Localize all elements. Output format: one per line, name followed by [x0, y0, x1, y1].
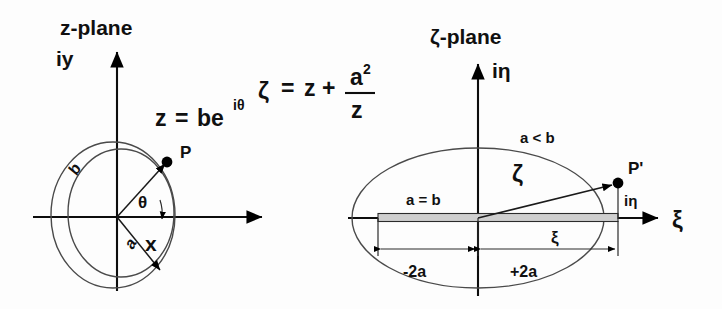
- theta-label: θ: [138, 193, 147, 212]
- dim-right-label: +2a: [510, 263, 537, 280]
- point-P-prime-label: P': [628, 159, 643, 178]
- transform-equation-term1: z: [304, 75, 316, 101]
- point-P-label: P: [180, 143, 191, 162]
- flat-plate-slit: [378, 214, 618, 222]
- xi-component-label: ξ: [551, 228, 559, 247]
- x-axis-label: x: [145, 232, 157, 255]
- transform-equation-lhs: ζ: [258, 77, 269, 104]
- conformal-mapping-figure: z-plane iy x b a θ P: [0, 0, 722, 309]
- xi-axis-label: ξ: [672, 206, 683, 233]
- z-plane-title: z-plane: [60, 16, 132, 39]
- point-equation-lhs: z: [155, 105, 167, 131]
- i-eta-axis-label: iη: [492, 59, 511, 82]
- equations-group: z = be iθ ζ = z + a 2 z: [155, 61, 375, 131]
- point-equation-exponent: iθ: [233, 97, 244, 113]
- transform-equation-numerator-exponent: 2: [363, 61, 371, 77]
- condition-a-less-b: a < b: [520, 129, 555, 146]
- transform-equation-denominator: z: [351, 97, 363, 123]
- radius-a-label: a: [121, 235, 140, 251]
- figure-canvas: z-plane iy x b a θ P: [0, 0, 722, 309]
- condition-a-equals-b: a = b: [406, 191, 441, 208]
- point-equation-base: be: [197, 105, 224, 131]
- right-plane-group: ζ-plane iη ξ a < b a = b ζ iη ξ P': [348, 25, 683, 296]
- i-eta-component-label: iη: [624, 192, 637, 209]
- left-plane-group: z-plane iy x b a θ P: [33, 16, 262, 291]
- point-equation-equals: =: [175, 105, 188, 131]
- radius-b-label: b: [65, 161, 85, 178]
- transform-equation-equals: =: [281, 75, 294, 101]
- point-P-dot: [162, 157, 173, 168]
- dim-left-label: -2a: [403, 263, 426, 280]
- point-P-prime-dot: [613, 178, 624, 189]
- transform-equation-numerator: a: [350, 64, 363, 90]
- zeta-vector-label: ζ: [512, 160, 523, 187]
- iy-axis-label: iy: [56, 47, 74, 70]
- zeta-plane-title: ζ-plane: [430, 25, 502, 48]
- transform-equation-plus: +: [322, 75, 335, 101]
